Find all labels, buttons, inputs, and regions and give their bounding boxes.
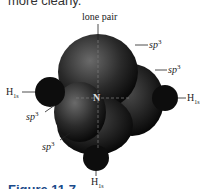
h-atom-left: [35, 77, 65, 107]
figure-caption: Figure 11.7: [8, 182, 76, 189]
h1s-label-left: H1s: [6, 86, 19, 99]
sp3-label-left: sp3: [26, 110, 38, 122]
nitrogen-label: N: [93, 92, 100, 103]
nh3-orbital-diagram: [0, 0, 207, 189]
lone-pair-label: lone pair: [82, 11, 117, 22]
h-atom-right: [152, 85, 178, 111]
sp3-label-bottom-left: sp3: [42, 140, 54, 152]
sp3-label-right: sp3: [168, 63, 180, 75]
h1s-label-bottom: H1s: [91, 176, 104, 189]
h1s-label-right: H1s: [187, 92, 200, 105]
h-atom-bottom: [83, 145, 109, 171]
sp3-label-top-right: sp3: [149, 38, 161, 50]
